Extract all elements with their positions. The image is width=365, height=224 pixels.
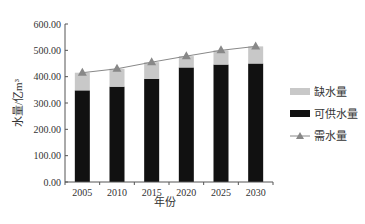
y-tick-label: 0.00 [44, 177, 62, 188]
x-tick-label: 2005 [72, 187, 92, 198]
bar-supply [248, 64, 263, 183]
triangle-marker-icon [251, 41, 260, 49]
bar-supply [144, 79, 159, 182]
bars [75, 46, 263, 182]
y-tick-label: 500.00 [34, 45, 62, 56]
triangle-marker-icon [78, 68, 87, 76]
y-axis-title: 水量/亿m³ [12, 78, 24, 127]
x-tick-label: 2010 [107, 187, 127, 198]
y-axis: 0.00100.00200.00300.00400.00500.00600.00 [34, 19, 69, 188]
x-axis-title: 年份 [154, 195, 176, 208]
y-tick-label: 300.00 [34, 98, 62, 109]
y-tick-label: 600.00 [34, 19, 62, 30]
legend: 缺水量可供水量需水量 [290, 85, 358, 142]
x-tick-label: 2020 [176, 187, 196, 198]
legend-label: 缺水量 [314, 85, 347, 98]
y-tick-label: 100.00 [34, 150, 62, 161]
demand-polyline [82, 46, 255, 72]
bar-supply [110, 87, 125, 182]
legend-swatch [290, 88, 310, 95]
bar-supply [179, 67, 194, 182]
bar-supply [214, 65, 229, 182]
triangle-marker-icon [217, 45, 226, 53]
legend-label: 可供水量 [314, 107, 358, 120]
y-tick-label: 200.00 [34, 124, 62, 135]
chart-root: 0.00100.00200.00300.00400.00500.00600.00… [0, 0, 365, 224]
y-tick-label: 400.00 [34, 71, 62, 82]
bar-supply [75, 90, 90, 182]
legend-label: 需水量 [314, 130, 347, 142]
legend-swatch [290, 110, 310, 117]
x-tick-label: 2025 [211, 187, 231, 198]
x-tick-label: 2030 [246, 187, 266, 198]
demand-line [78, 41, 260, 75]
